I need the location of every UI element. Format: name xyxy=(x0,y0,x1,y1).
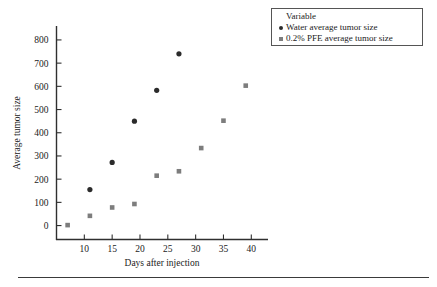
legend-item-water: Water average tumor size xyxy=(276,22,422,33)
data-point xyxy=(65,223,70,228)
data-point xyxy=(87,187,92,192)
legend-label-pfe: 0.2% PFE average tumor size xyxy=(286,33,393,44)
data-point xyxy=(110,205,115,210)
square-marker-icon xyxy=(276,37,286,41)
data-point xyxy=(110,160,115,165)
series-pfe xyxy=(65,83,248,227)
y-axis-tick-labels: 0100200300400500600700800 xyxy=(34,35,49,231)
series-water xyxy=(87,51,181,192)
x-axis-title: Days after injection xyxy=(125,258,200,268)
legend-label-water: Water average tumor size xyxy=(286,22,377,33)
data-point xyxy=(177,169,182,174)
x-tick-label: 40 xyxy=(247,244,257,254)
y-tick-label: 0 xyxy=(44,221,49,231)
x-axis-tick-labels: 10152025303540 xyxy=(80,244,257,254)
x-tick-label: 30 xyxy=(191,244,201,254)
data-point xyxy=(176,51,181,56)
footer-divider xyxy=(18,277,429,278)
y-tick-label: 200 xyxy=(34,175,49,185)
data-point xyxy=(154,88,159,93)
y-tick-label: 600 xyxy=(34,82,49,92)
data-point xyxy=(154,173,159,178)
y-tick-label: 300 xyxy=(34,151,49,161)
x-tick-label: 10 xyxy=(80,244,90,254)
data-point-layer xyxy=(65,51,248,227)
data-point xyxy=(199,146,204,151)
y-tick-label: 500 xyxy=(34,105,49,115)
circle-marker-icon xyxy=(276,26,286,30)
x-tick-label: 15 xyxy=(107,244,117,254)
legend: Variable Water average tumor size 0.2% P… xyxy=(271,8,423,46)
x-axis-ticks xyxy=(84,235,251,240)
data-point xyxy=(221,118,226,123)
y-tick-label: 800 xyxy=(34,35,49,45)
x-tick-label: 25 xyxy=(163,244,173,254)
x-tick-label: 35 xyxy=(219,244,229,254)
y-axis-ticks xyxy=(57,40,62,226)
data-point xyxy=(132,119,137,124)
legend-title: Variable xyxy=(286,11,422,22)
scatter-plot-figure: 0100200300400500600700800 10152025303540… xyxy=(0,0,437,287)
x-tick-label: 20 xyxy=(135,244,145,254)
legend-item-pfe: 0.2% PFE average tumor size xyxy=(276,33,422,44)
y-tick-label: 700 xyxy=(34,59,49,69)
y-tick-label: 400 xyxy=(34,128,49,138)
data-point xyxy=(243,83,248,88)
data-point xyxy=(132,202,137,207)
data-point xyxy=(88,214,93,219)
y-axis-title: Average tumor size xyxy=(12,96,22,170)
y-tick-label: 100 xyxy=(34,198,49,208)
